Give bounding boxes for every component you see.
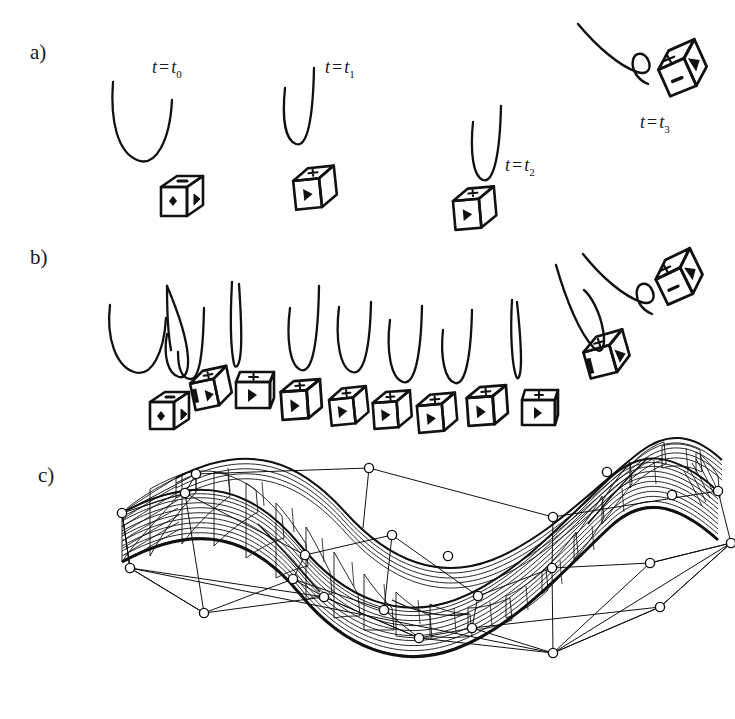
die-face-mark-diamond [169,196,177,206]
die-b-5 [328,386,370,426]
time-label-t2-sub: 2 [529,166,535,178]
panel-label-a: a) [30,40,46,65]
die-face-mark-plus [342,390,351,397]
die-face-mark-triangle [381,409,391,422]
control-point[interactable] [288,574,297,583]
die-face-mark-triangle [290,399,300,413]
control-point[interactable] [364,463,373,472]
control-point[interactable] [319,592,328,601]
spacetime-surface [122,438,722,657]
time-label-t1-eq: = [330,57,344,77]
control-point[interactable] [726,538,735,547]
die-b-6 [372,390,412,429]
control-point[interactable] [713,486,722,495]
die-face-mark-dash [669,285,678,291]
control-point[interactable] [300,550,309,559]
die-face-mark-plus [249,374,258,381]
time-label-t2-eq: = [510,155,524,175]
die-face-mark-plus [535,392,543,399]
trajectory-arc-t1 [284,68,314,144]
panel-label-b: b) [30,245,48,270]
arc-b-8 [442,310,472,383]
panel-a-curves [112,24,649,180]
arc-b-7 [389,306,422,382]
die-t2 [452,186,497,230]
time-label-t1-sub: 1 [349,68,355,80]
control-point[interactable] [645,558,654,567]
die-b-8 [466,385,509,426]
arc-b-5 [288,286,319,370]
die-b-1 [150,392,189,429]
die-face-mark-triangle [205,388,215,401]
die-b-3 [236,372,274,408]
die-face-mark-triangle [181,409,187,420]
arc-b-1 [109,305,166,373]
control-point[interactable] [125,563,134,572]
control-point[interactable] [655,602,664,611]
figure-root: a) b) c) t=t0 t=t1 t=t2 t=t3 [0,0,735,719]
die-t3 [651,37,714,98]
time-label-t3: t=t3 [640,112,670,135]
time-label-t3-eq: = [645,112,659,132]
control-point[interactable] [199,608,208,617]
die-face-mark-triangle [248,389,257,402]
time-label-t2: t=t2 [505,155,535,178]
die-face-mark-plus [386,393,394,400]
control-point[interactable] [547,563,556,572]
die-face-mark-triangle [476,405,486,419]
control-point[interactable] [667,490,676,499]
die-face-mark-triangle [463,208,473,221]
time-label-t0-sub: 0 [176,68,182,80]
time-label-t0-eq: = [157,57,171,77]
control-point[interactable] [379,605,388,614]
trajectory-arc-t3-swoop [578,24,650,84]
time-label-t0: t=t0 [152,57,182,80]
die-t0 [161,176,203,216]
die-b-9 [522,390,558,425]
die-b-7 [416,393,458,433]
die-face-mark-triangle [194,194,200,205]
arc-b-9 [511,300,521,378]
die-face-mark-triangle [685,264,698,279]
die-b-2 [188,366,234,410]
control-point[interactable] [443,551,452,560]
die-face-mark-triangle [534,407,542,419]
control-point[interactable] [548,512,557,521]
figure-canvas [0,0,735,719]
die-face-mark-plus [481,388,490,395]
die-b-4 [280,379,323,420]
die-face-mark-plus [468,190,477,197]
die-b-11 [648,247,710,308]
control-point[interactable] [117,508,126,517]
arc-b-4 [231,282,241,367]
panel-b-curves [109,254,653,383]
die-face-mark-plus [430,396,439,403]
die-face-mark-triangle [303,188,313,201]
die-t1 [292,166,338,210]
die-face-mark-triangle [689,55,702,70]
control-point[interactable] [467,623,476,632]
control-point[interactable] [180,488,189,497]
die-b-10 [579,328,634,380]
control-point[interactable] [473,591,482,600]
panel-label-c: c) [38,463,54,488]
control-point[interactable] [602,467,611,476]
die-face-mark-dash [673,77,682,83]
arc-b-3 [178,308,204,379]
control-point[interactable] [548,648,557,657]
control-point[interactable] [387,530,396,539]
control-point[interactable] [414,633,423,642]
time-label-t1: t=t1 [325,57,355,80]
trajectory-arc-t0 [112,82,172,161]
die-face-mark-plus [308,169,318,176]
arc-b-6 [338,302,371,372]
die-face-mark-triangle [427,412,437,425]
die-face-mark-diamond [157,411,165,421]
time-label-t3-sub: 3 [664,123,670,135]
die-face-mark-plus [203,371,213,379]
die-face-mark-plus [295,382,304,389]
control-point[interactable] [191,469,200,478]
die-face-mark-triangle [338,405,348,418]
trajectory-arc-t2 [472,106,501,180]
